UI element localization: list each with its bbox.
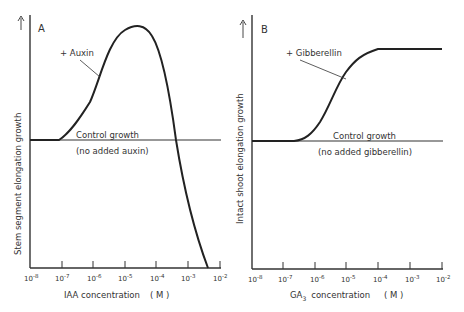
x-tick-labels-b: 10-8 10-7 10-6 10-5 10-4 10-3 10-2 xyxy=(248,274,450,284)
y-axis-arrow-icon xyxy=(240,20,246,38)
svg-text:10-2: 10-2 xyxy=(213,273,227,283)
gibberellin-label: + Gibberellin xyxy=(286,48,342,58)
svg-text:10-7: 10-7 xyxy=(55,273,70,283)
x-axis-unit-b: ( M ) xyxy=(384,290,403,300)
control-sub-b: (no added gibberellin) xyxy=(318,147,412,157)
x-axis-unit-a: ( M ) xyxy=(150,290,169,300)
y-axis-label-b: Intact shoot elongation growth xyxy=(235,93,245,224)
figure: A + Auxin Control growth (no added auxin… xyxy=(0,0,464,312)
x-tick-labels-a: 10-8 10-7 10-6 10-5 10-4 10-3 10-2 xyxy=(24,273,227,283)
svg-text:10-6: 10-6 xyxy=(310,274,325,284)
svg-text:10-3: 10-3 xyxy=(181,273,196,283)
panel-letter-a: A xyxy=(38,23,45,34)
y-axis-arrow-icon xyxy=(18,16,24,30)
panel-letter-b: B xyxy=(261,24,268,35)
svg-text:10-4: 10-4 xyxy=(373,274,388,284)
control-label-a: Control growth xyxy=(76,130,139,140)
svg-text:10-8: 10-8 xyxy=(24,273,39,283)
svg-text:10-5: 10-5 xyxy=(118,273,133,283)
x-axis-label-b: GA3concentration xyxy=(290,290,370,302)
svg-text:10-7: 10-7 xyxy=(278,274,293,284)
svg-text:10-5: 10-5 xyxy=(341,274,356,284)
gibberellin-leader xyxy=(300,60,346,79)
x-ticks xyxy=(62,261,220,268)
svg-text:10-8: 10-8 xyxy=(248,274,263,284)
svg-text:10-6: 10-6 xyxy=(87,273,102,283)
control-label-b: Control growth xyxy=(333,131,396,141)
svg-text:10-4: 10-4 xyxy=(150,273,165,283)
panel-b: B + Gibberellin Control growth (no added… xyxy=(235,15,450,302)
control-sub-a: (no added auxin) xyxy=(76,146,149,156)
auxin-label: + Auxin xyxy=(60,48,94,58)
gibberellin-curve xyxy=(252,49,442,141)
x-axis-label-a: IAA concentration xyxy=(64,290,140,300)
panel-a: A + Auxin Control growth (no added auxin… xyxy=(13,15,227,300)
svg-text:10-3: 10-3 xyxy=(405,274,420,284)
auxin-leader xyxy=(80,60,100,77)
x-ticks xyxy=(283,262,442,269)
y-axis-label-a: Stem segment elongation growth xyxy=(13,113,23,255)
svg-text:10-2: 10-2 xyxy=(436,274,450,284)
